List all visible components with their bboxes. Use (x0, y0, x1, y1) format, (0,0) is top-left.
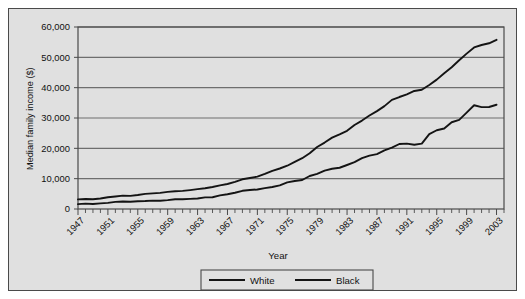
x-tick-label: 1947 (64, 215, 87, 238)
x-tick-label: 1963 (183, 215, 206, 238)
figure-panel: 60,00050,00040,00030,00020,00010,0000Med… (8, 8, 517, 291)
y-tick-label: 30,000 (41, 112, 70, 123)
income-line-chart: 60,00050,00040,00030,00020,00010,0000Med… (9, 9, 518, 292)
x-tick-label: 1983 (333, 215, 356, 238)
legend-label-black: Black (336, 275, 360, 286)
y-axis-title: Median family income ($) (25, 67, 35, 170)
y-tick-label: 50,000 (41, 52, 70, 63)
y-tick-label: 10,000 (41, 173, 70, 184)
x-tick-label: 2003 (482, 215, 505, 238)
chart-area: 60,00050,00040,00030,00020,00010,0000Med… (9, 9, 516, 290)
x-tick-label: 1967 (213, 215, 236, 238)
legend: WhiteBlack (201, 270, 373, 290)
y-axis: 60,00050,00040,00030,00020,00010,0000 (41, 21, 78, 214)
x-axis-title: Year (268, 250, 288, 261)
legend-label-white: White (250, 275, 275, 286)
x-tick-label: 1955 (124, 215, 147, 238)
x-tick-label: 1991 (393, 215, 416, 238)
x-tick-label: 1959 (154, 215, 177, 238)
x-tick-label: 1975 (273, 215, 296, 238)
y-tick-label: 0 (65, 203, 70, 214)
y-tick-label: 40,000 (41, 82, 70, 93)
x-tick-label: 1987 (363, 215, 386, 238)
x-tick-label: 1995 (423, 215, 446, 238)
x-tick-label: 1951 (94, 215, 117, 238)
y-tick-label: 20,000 (41, 143, 70, 154)
x-tick-labels: 1947195119551959196319671971197519791983… (64, 215, 505, 238)
x-tick-label: 1979 (303, 215, 326, 238)
x-tick-label: 1971 (243, 215, 266, 238)
y-tick-label: 60,000 (41, 21, 70, 32)
x-axis (78, 209, 504, 215)
x-tick-label: 1999 (453, 215, 476, 238)
